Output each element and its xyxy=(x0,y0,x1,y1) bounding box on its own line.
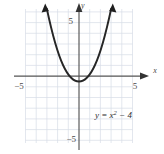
y-tick-label-5: 5 xyxy=(69,16,74,26)
equation-base: y = x xyxy=(94,110,114,120)
x-axis xyxy=(14,73,149,80)
x-tick-label-5: 5 xyxy=(133,81,138,91)
coordinate-plane-svg: −5 5 5 −5 x y y = x2 − 4 xyxy=(0,0,164,154)
y-axis-label: y xyxy=(80,1,85,10)
x-axis-label: x xyxy=(152,66,157,75)
y-tick-label-negative-5: −5 xyxy=(66,134,76,144)
x-tick-label-negative-5: −5 xyxy=(14,81,24,91)
equation-tail: − 4 xyxy=(117,110,133,120)
equation-annotation: y = x2 − 4 xyxy=(94,109,132,120)
svg-text:y = x2 − 4: y = x2 − 4 xyxy=(94,109,132,120)
parabola-graph-figure: −5 5 5 −5 x y y = x2 − 4 xyxy=(0,0,164,154)
